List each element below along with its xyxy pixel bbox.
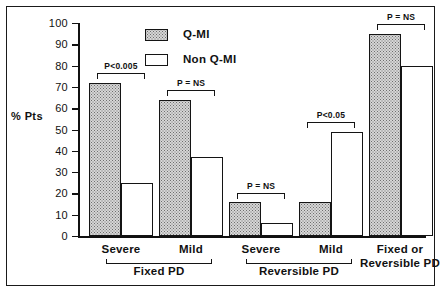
category-label-fixed-severe: Severe — [91, 243, 151, 255]
y-axis-title: % Pts — [11, 110, 43, 122]
bar-non-q-mi-fixed-or-reversible — [401, 66, 433, 236]
sig-bracket-reversible-mild — [307, 122, 355, 128]
y-tick-label-100: 100 — [44, 17, 68, 29]
category-label-fixed-mild: Mild — [161, 243, 221, 255]
category-label-reversible-mild: Mild — [301, 243, 361, 255]
group-bracket-reversible-pd — [246, 259, 352, 264]
bar-q-mi-fixed-or-reversible — [369, 34, 401, 236]
sig-bracket-fixed-or-reversible — [377, 24, 425, 30]
legend-swatch-q-mi — [145, 29, 168, 41]
y-tick-50 — [72, 130, 78, 131]
y-tick-60 — [72, 108, 78, 109]
y-tick-label-90: 90 — [44, 38, 68, 50]
category-label-fixed-or-reversible-line1: Fixed or — [356, 243, 442, 255]
bar-non-q-mi-fixed-severe — [121, 183, 153, 236]
legend-label-non-q-mi: Non Q-MI — [183, 53, 237, 65]
y-tick-label-40-wrap: 40 — [42, 145, 68, 157]
y-tick-10 — [72, 215, 78, 216]
group-label-reversible-pd: Reversible PD — [239, 265, 359, 277]
y-tick-70 — [72, 87, 78, 88]
legend-label-q-mi: Q-MI — [183, 28, 210, 40]
bar-non-q-mi-fixed-mild — [191, 157, 223, 236]
y-tick-label-50: 50 — [44, 124, 68, 136]
plot-area: % Pts 100 90 80 70 60 50 40 — [0, 0, 442, 293]
y-tick-label-60-wrap: 60 — [42, 102, 68, 114]
group-bracket-fixed-pd — [106, 259, 212, 264]
y-tick-label-90-wrap: 90 — [42, 38, 68, 50]
bar-q-mi-reversible-mild — [299, 202, 331, 236]
sig-label-fixed-or-reversible: P = NS — [371, 12, 431, 22]
y-tick-30 — [72, 172, 78, 173]
y-tick-label-20: 20 — [44, 187, 68, 199]
sig-bracket-reversible-severe — [237, 193, 285, 199]
y-tick-80 — [72, 66, 78, 67]
y-tick-label-80: 80 — [44, 60, 68, 72]
sig-label-fixed-mild: P = NS — [161, 78, 221, 88]
bar-q-mi-reversible-severe — [229, 202, 261, 236]
y-tick-0 — [72, 236, 78, 237]
bar-q-mi-fixed-mild — [159, 100, 191, 236]
y-tick-label-30: 30 — [44, 166, 68, 178]
sig-label-reversible-severe: P = NS — [231, 181, 291, 191]
y-tick-label-40: 40 — [44, 145, 68, 157]
y-axis-line — [78, 23, 80, 237]
y-tick-label-60: 60 — [44, 102, 68, 114]
y-tick-20 — [72, 193, 78, 194]
y-tick-label-100-wrap: 100 — [42, 17, 68, 29]
y-tick-label-80-wrap: 80 — [42, 60, 68, 72]
y-tick-label-70: 70 — [44, 81, 68, 93]
category-label-reversible-severe: Severe — [231, 243, 291, 255]
sig-bracket-fixed-mild — [167, 90, 215, 96]
bar-non-q-mi-reversible-severe — [261, 223, 293, 236]
y-tick-label-30-wrap: 30 — [42, 166, 68, 178]
bar-non-q-mi-reversible-mild — [331, 132, 363, 236]
y-tick-90 — [72, 44, 78, 45]
y-tick-40 — [72, 151, 78, 152]
sig-bracket-fixed-severe — [97, 73, 145, 79]
category-label-fixed-or-reversible-line2: Reversible PD — [351, 257, 442, 269]
sig-label-reversible-mild: P<0.05 — [301, 110, 361, 120]
y-tick-label-0-wrap: 0 — [42, 230, 68, 242]
x-axis-line — [78, 236, 426, 238]
sig-label-fixed-severe: P<0.005 — [91, 61, 151, 71]
y-tick-100 — [72, 23, 78, 24]
y-tick-label-70-wrap: 70 — [42, 81, 68, 93]
y-tick-label-50-wrap: 50 — [42, 124, 68, 136]
group-label-fixed-pd: Fixed PD — [114, 265, 204, 277]
chart-figure: % Pts 100 90 80 70 60 50 40 — [0, 0, 442, 293]
y-tick-label-10: 10 — [44, 209, 68, 221]
y-tick-label-0: 0 — [44, 230, 68, 242]
bar-q-mi-fixed-severe — [89, 83, 121, 236]
y-tick-label-10-wrap: 10 — [42, 209, 68, 221]
y-tick-label-20-wrap: 20 — [42, 187, 68, 199]
